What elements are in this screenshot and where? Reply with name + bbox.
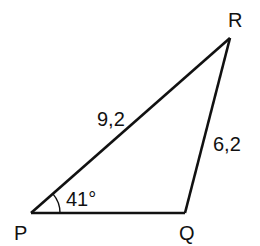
vertex-label-r: R [228, 9, 242, 31]
angle-label-p: 41° [66, 188, 96, 210]
vertex-label-p: P [14, 222, 27, 244]
vertex-label-q: Q [179, 222, 195, 244]
side-pr [31, 38, 230, 213]
side-label-pr: 9,2 [97, 108, 125, 130]
angle-arc-p [53, 194, 60, 213]
side-label-qr: 6,2 [213, 133, 241, 155]
triangle-svg: P Q R 9,2 6,2 41° [0, 0, 260, 246]
side-qr [185, 38, 230, 213]
triangle-diagram: P Q R 9,2 6,2 41° [0, 0, 260, 246]
